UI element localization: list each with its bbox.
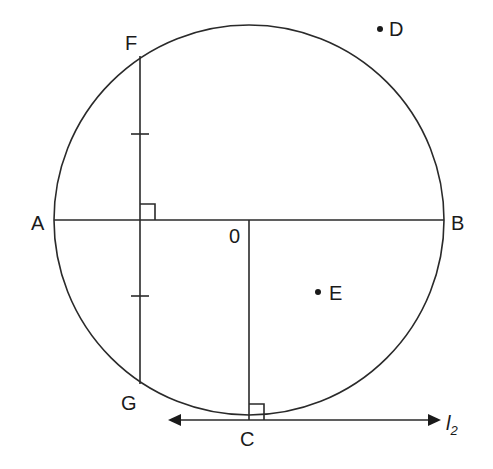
- geometry-diagram: F A B 0 D E G C l2: [0, 0, 493, 469]
- label-a: A: [31, 212, 45, 234]
- arrow-left-icon: [168, 414, 181, 426]
- point-d-dot: [377, 26, 383, 32]
- label-d: D: [389, 18, 403, 40]
- right-angle-marker-fg: [140, 204, 155, 220]
- point-e-dot: [315, 289, 321, 295]
- label-e: E: [329, 282, 342, 304]
- arrow-right-icon: [428, 414, 441, 426]
- label-g: G: [121, 392, 137, 414]
- label-c: C: [240, 428, 254, 450]
- label-l2: l2: [446, 412, 458, 438]
- label-f: F: [125, 32, 137, 54]
- label-center-o: 0: [229, 225, 240, 247]
- label-b: B: [451, 212, 464, 234]
- right-angle-marker-c: [249, 404, 264, 420]
